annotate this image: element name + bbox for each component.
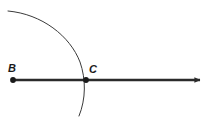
- point-c-label: C: [89, 63, 98, 75]
- point-b-label: B: [8, 62, 16, 74]
- geometry-diagram: B C: [0, 0, 211, 121]
- point-b-dot: [10, 77, 16, 83]
- geometry-figure-canvas: B C: [0, 0, 211, 121]
- compass-arc: [8, 11, 84, 116]
- point-c-dot: [83, 77, 89, 83]
